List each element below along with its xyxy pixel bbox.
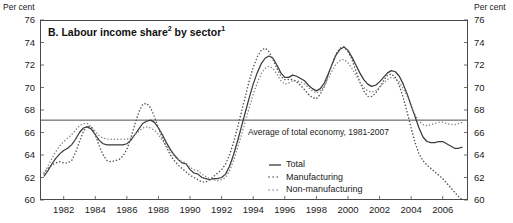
axis-ticks bbox=[40, 20, 468, 200]
y-axis-tick-label: 68 bbox=[9, 105, 35, 115]
x-axis-tick-label: 2002 bbox=[369, 205, 390, 215]
x-axis-tick-label: 1992 bbox=[211, 205, 232, 215]
y-axis-tick-label: 74 bbox=[474, 38, 500, 48]
x-axis-tick-label: 1988 bbox=[148, 205, 169, 215]
page-title: B. Labour income share2 by sector1 bbox=[48, 25, 225, 38]
y-axis-tick-label: 70 bbox=[9, 83, 35, 93]
legend-item: Manufacturing bbox=[268, 171, 363, 184]
y-axis-tick-label: 66 bbox=[474, 128, 500, 138]
legend-swatch-icon bbox=[268, 185, 282, 194]
legend-label: Non-manufacturing bbox=[286, 183, 363, 196]
figure-panel-b: Per cent Per cent B. Labour income share… bbox=[0, 0, 513, 223]
y-axis-tick-label: 70 bbox=[474, 83, 500, 93]
y-axis-tick-label: 62 bbox=[9, 173, 35, 183]
x-axis-tick-label: 1986 bbox=[116, 205, 137, 215]
x-axis-tick-label: 1998 bbox=[306, 205, 327, 215]
x-axis-tick-label: 2004 bbox=[401, 205, 422, 215]
series-line bbox=[44, 47, 463, 200]
y-axis-tick-label: 64 bbox=[9, 150, 35, 160]
x-axis-tick-label: 2006 bbox=[432, 205, 453, 215]
data-series-layer bbox=[44, 47, 463, 200]
x-axis-tick-label: 1990 bbox=[179, 205, 200, 215]
x-axis-tick-label: 1994 bbox=[243, 205, 264, 215]
y-axis-tick-label: 62 bbox=[474, 173, 500, 183]
x-axis-tick-label: 1982 bbox=[53, 205, 74, 215]
legend-swatch-icon bbox=[268, 172, 282, 181]
chart-legend: TotalManufacturingNon-manufacturing bbox=[268, 158, 363, 196]
y-axis-tick-label: 76 bbox=[9, 15, 35, 25]
y-axis-tick-label: 72 bbox=[474, 60, 500, 70]
y-axis-tick-label: 68 bbox=[474, 105, 500, 115]
x-axis-tick-label: 2000 bbox=[337, 205, 358, 215]
y-axis-tick-label: 60 bbox=[9, 195, 35, 205]
y-axis-tick-label: 72 bbox=[9, 60, 35, 70]
y-axis-tick-label: 76 bbox=[474, 15, 500, 25]
y-axis-tick-label: 60 bbox=[474, 195, 500, 205]
legend-swatch-icon bbox=[268, 160, 282, 169]
legend-item: Total bbox=[268, 158, 363, 171]
legend-label: Total bbox=[286, 158, 305, 171]
y-axis-tick-label: 66 bbox=[9, 128, 35, 138]
y-axis-tick-label: 74 bbox=[9, 38, 35, 48]
x-axis-tick-label: 1996 bbox=[274, 205, 295, 215]
x-axis-tick-label: 1984 bbox=[85, 205, 106, 215]
average-line-annotation: Average of total economy, 1981-2007 bbox=[248, 127, 389, 137]
y-axis-tick-label: 64 bbox=[474, 150, 500, 160]
legend-item: Non-manufacturing bbox=[268, 183, 363, 196]
legend-label: Manufacturing bbox=[286, 171, 343, 184]
